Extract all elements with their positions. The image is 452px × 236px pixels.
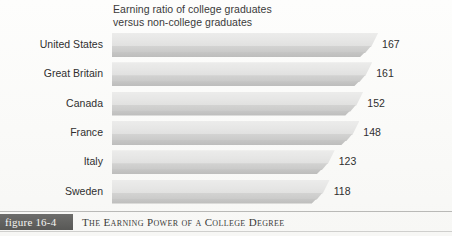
bar (112, 150, 335, 174)
chart-bar-row: Sweden118 (0, 178, 452, 207)
bar-base (112, 169, 335, 174)
figure-number-badge: figure 16-4 (0, 214, 73, 230)
chart-bar-row: Italy123 (0, 148, 452, 177)
chart-bar-row: Canada152 (0, 90, 452, 119)
bar (112, 62, 372, 86)
category-label: Canada (0, 97, 103, 110)
caption-bottom-rule (0, 231, 452, 232)
bar-base (112, 81, 372, 86)
bar-value-label: 148 (363, 126, 381, 139)
bar-body (112, 105, 363, 112)
bar-face (112, 121, 359, 135)
bar-face (112, 180, 330, 194)
bar-face (112, 62, 372, 76)
bar-value-label: 161 (376, 67, 394, 80)
bar-base (112, 140, 359, 145)
bar-value-label: 167 (382, 38, 400, 51)
bar-body (112, 46, 378, 53)
bar-face (112, 150, 335, 164)
bar-value-label: 118 (334, 185, 351, 198)
bar-face (112, 92, 363, 106)
bar (112, 33, 378, 57)
figure-caption: figure 16-4 The Earning Power of a Colle… (0, 213, 452, 231)
bar-base (112, 52, 378, 57)
bar-value-label: 123 (339, 155, 357, 168)
bar (112, 92, 363, 116)
category-label: Italy (0, 155, 103, 168)
figure-page: Earning ratio of college graduates versu… (0, 0, 452, 236)
chart-title: Earning ratio of college graduates versu… (113, 3, 413, 28)
bar-face (112, 33, 378, 47)
bar-body (112, 193, 330, 200)
category-label: Sweden (0, 185, 103, 198)
bar-base (112, 111, 363, 116)
chart-bar-row: Great Britain161 (0, 60, 452, 89)
bar (112, 121, 359, 145)
chart-plot-area: United States167Great Britain161Canada15… (0, 31, 452, 209)
caption-divider (0, 211, 452, 212)
bar-base (112, 199, 330, 204)
category-label: United States (0, 38, 103, 51)
chart-bar-row: France148 (0, 119, 452, 148)
category-label: France (0, 126, 103, 139)
bar (112, 180, 330, 204)
category-label: Great Britain (0, 67, 103, 80)
bar-body (112, 163, 335, 170)
bar-body (112, 134, 359, 141)
chart-bar-row: United States167 (0, 31, 452, 60)
figure-caption-text: The Earning Power of a College Degree (82, 214, 285, 230)
bar-value-label: 152 (367, 97, 385, 110)
bar-body (112, 75, 372, 82)
